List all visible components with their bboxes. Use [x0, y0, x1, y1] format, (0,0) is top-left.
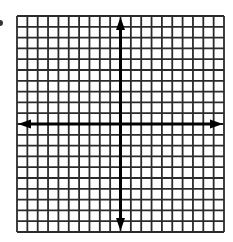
coordinate-grid: [0, 0, 233, 242]
coordinate-plane: [0, 0, 233, 242]
